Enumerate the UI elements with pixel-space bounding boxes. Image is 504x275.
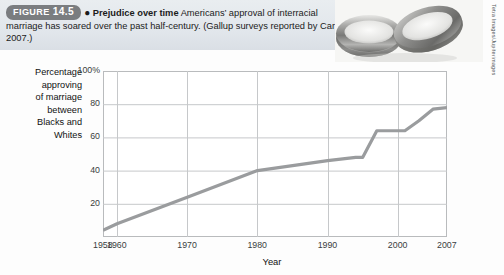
wedding-rings-photo [335, 0, 483, 62]
y-tick-label: 20 [90, 198, 100, 208]
x-tick-label: 1970 [177, 240, 197, 250]
photo-credit: Tetra Images/Jupiterimages [484, 4, 497, 90]
x-tick-label: 1980 [247, 240, 267, 250]
figure-badge-number: 14.5 [53, 6, 74, 17]
x-axis-title-text: Year [263, 256, 282, 267]
plot-area [103, 71, 447, 237]
x-tick-label: 2000 [388, 240, 408, 250]
x-axis-title: Year [0, 256, 504, 267]
figure-number-badge: FIGURE 14.5 [6, 5, 81, 20]
x-tick-label: 1990 [318, 240, 338, 250]
figure-title: Prejudice over time [93, 8, 179, 18]
x-tick-label: 1960 [107, 240, 127, 250]
y-tick-label: 40 [90, 165, 100, 175]
chart-svg [103, 71, 447, 237]
figure-badge-label: FIGURE [13, 7, 50, 17]
y-tick-label: 80 [90, 98, 100, 108]
y-axis-tick-labels: 100%80604020 [40, 71, 100, 241]
caption-bullet-icon: ● [84, 7, 90, 18]
figure-caption: FIGURE 14.5● Prejudice over time America… [6, 5, 350, 45]
caption-panel: FIGURE 14.5● Prejudice over time America… [0, 0, 358, 50]
figure-container: FIGURE 14.5● Prejudice over time America… [0, 0, 504, 275]
y-tick-label: 60 [90, 131, 100, 141]
y-tick-label: 100% [78, 65, 101, 75]
x-tick-label: 2007 [437, 240, 457, 250]
